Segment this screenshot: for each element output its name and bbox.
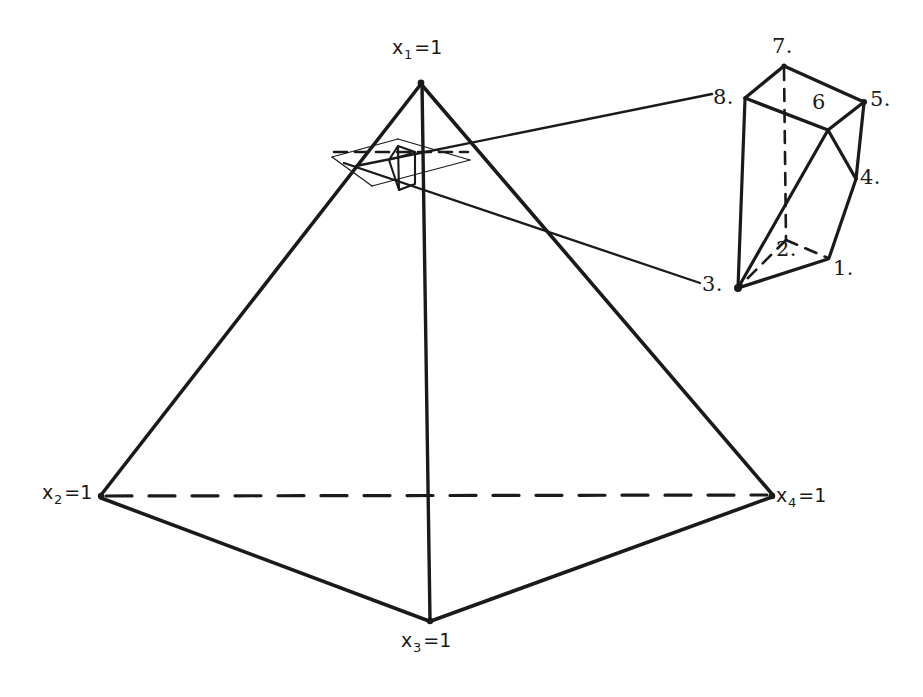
inset-edge-6-5 bbox=[828, 102, 864, 130]
tetra-vertex-right-dot bbox=[769, 493, 775, 499]
leader-line-to-vertex-8 bbox=[356, 94, 712, 166]
inset-edge-7-2-hidden bbox=[784, 68, 786, 240]
inset-vertex-3-dot bbox=[734, 284, 742, 292]
tetra-edge-left-front bbox=[101, 498, 429, 621]
tetra-vertex-left-dot bbox=[98, 493, 104, 499]
inset-vertex-label-3: 3. bbox=[702, 274, 723, 295]
tetra-vertex-apex-dot bbox=[418, 80, 425, 87]
inset-edge-8-7 bbox=[745, 66, 784, 98]
vertex-label-x2: x2=1 bbox=[42, 483, 93, 506]
inset-edge-6-4 bbox=[828, 130, 856, 179]
inset-vertex-label-7: 7. bbox=[772, 36, 793, 57]
inset-edge-8-3 bbox=[738, 99, 745, 288]
vertex-label-x1-eq: =1 bbox=[413, 36, 443, 58]
figure-root: x1=1 x2=1 x3=1 x4=1 1. 2. 3. 4. 5. 6 7. … bbox=[0, 0, 923, 697]
vertex-label-x1-var: x bbox=[392, 36, 404, 58]
tetrahedron-group bbox=[98, 80, 775, 625]
small-poly-edge-d bbox=[372, 160, 470, 186]
inset-vertex-label-2: 2. bbox=[776, 239, 797, 260]
tetra-edge-right-front bbox=[431, 497, 772, 621]
vertex-label-x2-sub: 2 bbox=[54, 492, 64, 507]
tetra-edge-apex-front bbox=[422, 84, 430, 620]
inset-vertex-label-5: 5. bbox=[870, 89, 891, 110]
vertex-label-x4-var: x bbox=[776, 484, 788, 506]
vertex-label-x2-var: x bbox=[42, 481, 54, 503]
diagram-canvas bbox=[0, 0, 923, 697]
leader-line-to-vertex-3 bbox=[344, 163, 700, 283]
vertex-label-x3-eq: =1 bbox=[422, 629, 452, 651]
vertex-label-x1-sub: 1 bbox=[404, 47, 414, 62]
vertex-label-x1: x1=1 bbox=[392, 38, 443, 61]
inset-vertex-5-dot bbox=[861, 99, 867, 105]
inset-vertex-label-1: 1. bbox=[833, 258, 854, 279]
inset-vertex-label-6: 6 bbox=[812, 92, 826, 113]
vertex-label-x4-eq: =1 bbox=[797, 484, 827, 506]
inset-edge-4-1 bbox=[829, 179, 856, 258]
vertex-label-x2-eq: =1 bbox=[63, 481, 93, 503]
tetra-vertex-front-dot bbox=[427, 618, 433, 624]
vertex-label-x4: x4=1 bbox=[776, 486, 827, 509]
vertex-label-x3-sub: 3 bbox=[413, 640, 423, 655]
inset-vertex-label-4: 4. bbox=[860, 167, 881, 188]
vertex-label-x3: x3=1 bbox=[401, 631, 452, 654]
tetra-edge-x2-x4-hidden bbox=[106, 495, 767, 496]
vertex-label-x3-var: x bbox=[401, 629, 413, 651]
inset-vertex-label-8: 8. bbox=[713, 87, 734, 108]
vertex-label-x4-sub: 4 bbox=[788, 495, 798, 510]
inset-vertex-7-dot bbox=[781, 63, 786, 68]
